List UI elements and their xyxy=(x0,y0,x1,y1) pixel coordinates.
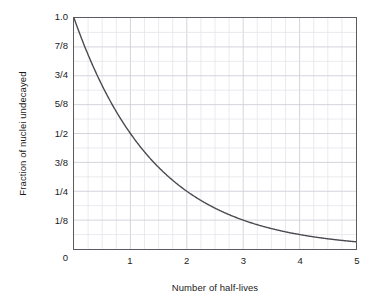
y-tick-label: 1/2 xyxy=(24,129,68,139)
x-tick-label: 3 xyxy=(228,256,258,266)
x-tick-label: 2 xyxy=(172,256,202,266)
y-tick-label: 1/4 xyxy=(24,187,68,197)
y-tick-label: 5/8 xyxy=(24,99,68,109)
y-tick-label: 7/8 xyxy=(24,41,68,51)
plot-area xyxy=(73,17,357,250)
y-tick-label: 1.0 xyxy=(24,12,68,22)
y-tick-label: 3/4 xyxy=(24,70,68,80)
y-tick-label: 1/8 xyxy=(24,216,68,226)
y-tick-label: 3/8 xyxy=(24,158,68,168)
x-tick-label: 5 xyxy=(342,256,372,266)
x-axis-tick-labels: 12345 xyxy=(0,256,376,270)
x-tick-label: 4 xyxy=(285,256,315,266)
decay-curve xyxy=(74,18,356,249)
x-axis-title: Number of half-lives xyxy=(73,282,357,293)
decay-chart-figure: Fraction of nuclei undecayed 1.07/83/45/… xyxy=(0,0,376,304)
x-tick-label: 1 xyxy=(115,256,145,266)
